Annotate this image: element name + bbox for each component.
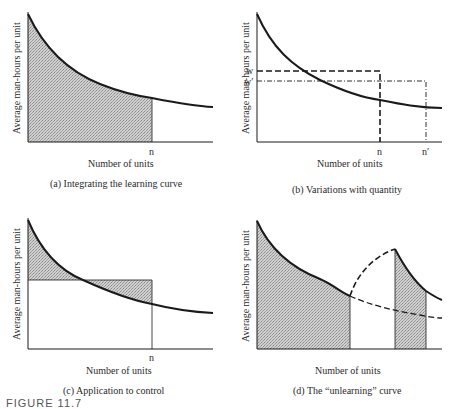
x-tick-n: n — [149, 352, 154, 363]
y-axis-label: Average man-hours per unit — [11, 22, 22, 134]
y-axis-label: Average man-hours per unit — [240, 22, 251, 134]
x-axis-label: Number of units — [88, 158, 154, 169]
x-tick-n: n — [149, 146, 154, 157]
unlearning-curve-dashed — [350, 249, 395, 296]
shaded-area-before-interruption — [257, 221, 350, 349]
panel-caption: (a) Integrating the learning curve — [50, 178, 183, 190]
shaded-area-under-curve — [28, 14, 152, 142]
dashed-bound-n-w — [257, 71, 380, 142]
shaded-excess-region — [28, 220, 83, 280]
x-axis-label: Number of units — [86, 365, 152, 376]
x-tick-n: n — [377, 146, 382, 157]
x-axis-label: Number of units — [315, 365, 381, 376]
panel-d: Number of units Average man-hours per un… — [240, 220, 442, 397]
y-axis-label: Average man-hours per unit — [11, 228, 22, 340]
panel-caption: (b) Variations with quantity — [292, 184, 402, 196]
x-tick-n-prime: n′ — [422, 146, 429, 157]
panel-c: n Number of units Average man-hours per … — [11, 218, 213, 397]
shaded-area-after-resumption — [395, 249, 426, 349]
y-axis-label: Average man-hours per unit — [240, 230, 251, 342]
learning-curve — [257, 14, 442, 108]
panel-caption: (c) Application to control — [63, 385, 165, 397]
panel-caption: (d) The “unlearning” curve — [293, 385, 402, 397]
figure-caption-partial: FIGURE 11.7 — [6, 397, 82, 409]
panel-b: w w′ n n′ Number of units Average man-ho… — [240, 12, 442, 196]
x-axis-label: Number of units — [317, 158, 383, 169]
panel-a: n Number of units Average man-hours per … — [11, 12, 213, 190]
